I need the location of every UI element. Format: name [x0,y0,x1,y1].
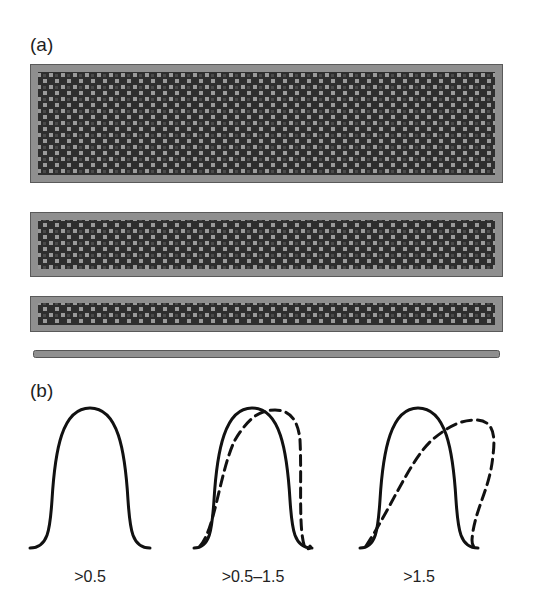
profile-curves [0,0,536,609]
profile-label-3: >1.5 [349,568,489,586]
solid-profile-2 [194,408,312,548]
solid-profile-1 [30,408,150,548]
profile-label-1: >0.5 [20,568,160,586]
dashed-profile-3 [366,420,494,547]
profile-label-2: >0.5–1.5 [183,568,323,586]
